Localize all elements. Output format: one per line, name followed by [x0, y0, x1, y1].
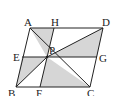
label-e: E	[13, 51, 20, 63]
point-p-dot	[46, 56, 49, 59]
label-f: F	[36, 87, 42, 96]
label-d: D	[102, 16, 110, 28]
parallelogram-diagram: A H D E P G B F C	[0, 0, 122, 96]
label-b: B	[8, 87, 15, 96]
label-c: C	[87, 87, 94, 96]
label-g: G	[99, 52, 107, 64]
shaded-triangle-pfc	[40, 57, 90, 87]
label-a: A	[24, 16, 32, 28]
label-h: H	[51, 16, 59, 28]
label-p: P	[49, 44, 55, 56]
